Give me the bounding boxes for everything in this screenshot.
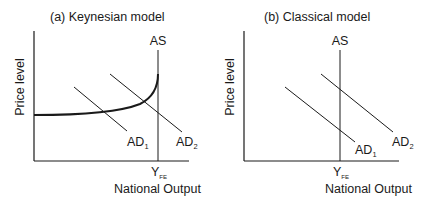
panel-b-title: (b) Classical model bbox=[264, 10, 370, 24]
panel-b-ad1-label: AD1 bbox=[355, 143, 377, 159]
panel-a-y-axis-label: Price level bbox=[13, 58, 27, 116]
panel-b-y-axis-label: Price level bbox=[223, 58, 237, 116]
panel-a-ad2-line bbox=[110, 74, 182, 132]
panel-b-ad2-label: AD2 bbox=[392, 135, 414, 151]
panel-b-x-axis-label: National Output bbox=[325, 182, 412, 196]
panel-b-yfe-label: YFE bbox=[333, 165, 349, 180]
panel-classical: (b) Classical model Price level AS AD1 A… bbox=[223, 10, 414, 196]
panel-a-ad2-label: AD2 bbox=[176, 135, 198, 151]
panel-a-x-axis-label: National Output bbox=[114, 182, 201, 196]
panel-keynesian: (a) Keynesian model Price level AS AD1 A… bbox=[13, 10, 201, 196]
diagram-canvas: (a) Keynesian model Price level AS AD1 A… bbox=[0, 0, 421, 201]
panel-a-ad1-label: AD1 bbox=[127, 135, 149, 151]
panel-b-ad1-line bbox=[285, 87, 355, 142]
panel-a-yfe-label: YFE bbox=[151, 165, 167, 180]
panel-a-as-label: AS bbox=[150, 34, 167, 48]
panel-a-title: (a) Keynesian model bbox=[50, 10, 165, 24]
panel-b-as-label: AS bbox=[332, 34, 349, 48]
panel-a-as-curve bbox=[34, 74, 158, 115]
